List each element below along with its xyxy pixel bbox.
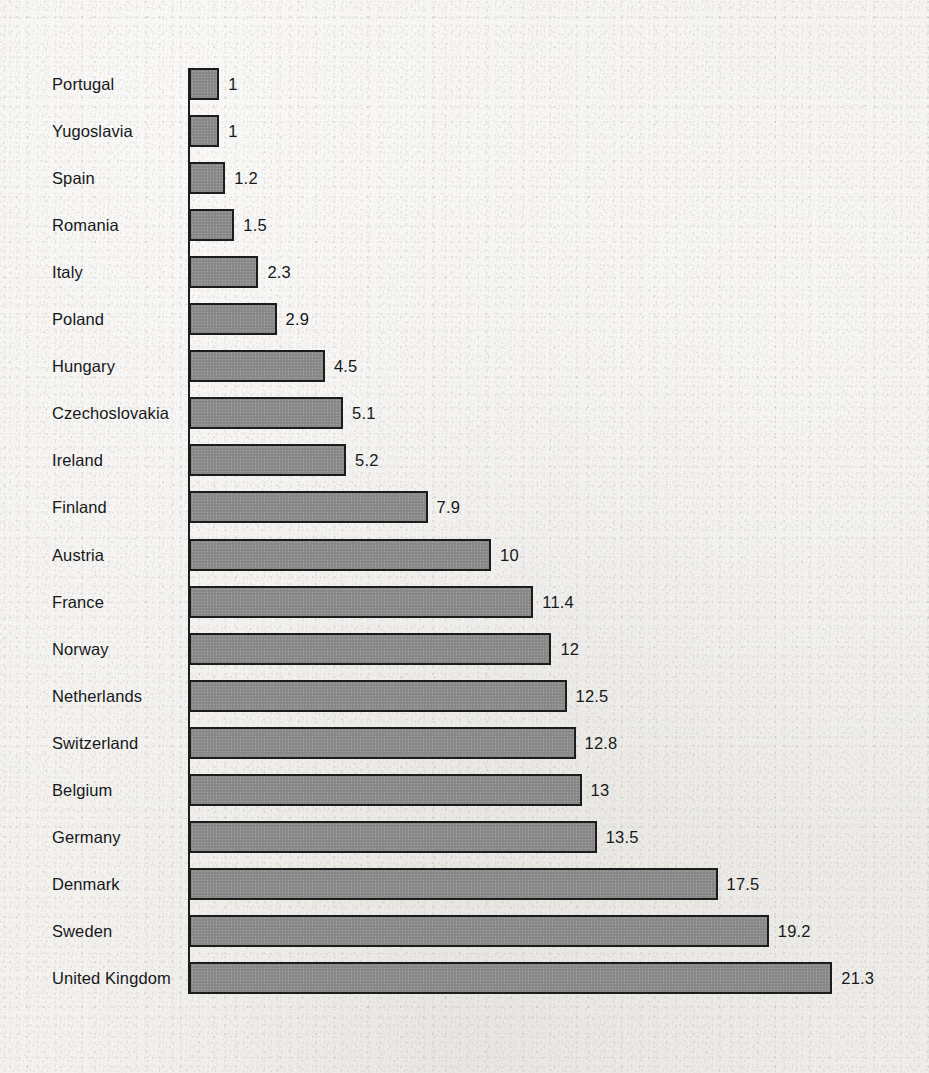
value-label-ireland: 5.2: [355, 451, 379, 470]
category-label-portugal: Portugal: [52, 75, 114, 94]
value-label-yugoslavia: 1: [228, 122, 237, 141]
value-label-austria: 10: [500, 545, 519, 564]
bar-row: Poland2.9: [0, 303, 929, 335]
bar-row: Norway12: [0, 633, 929, 665]
bar-norway: [189, 633, 551, 665]
bar-spain: [189, 162, 225, 194]
category-label-romania: Romania: [52, 216, 119, 235]
bar-row: United Kingdom21.3: [0, 962, 929, 994]
bar-row: Spain1.2: [0, 162, 929, 194]
bar-france: [189, 586, 533, 618]
value-label-italy: 2.3: [267, 263, 291, 282]
value-label-finland: 7.9: [437, 498, 461, 517]
bar-row: Italy2.3: [0, 256, 929, 288]
bar-row: Germany13.5: [0, 821, 929, 853]
value-label-denmark: 17.5: [727, 874, 760, 893]
value-label-hungary: 4.5: [334, 357, 358, 376]
bar-switzerland: [189, 727, 576, 759]
category-label-ireland: Ireland: [52, 451, 103, 470]
bar-row: Hungary4.5: [0, 350, 929, 382]
value-label-sweden: 19.2: [778, 921, 811, 940]
bar-sweden: [189, 915, 769, 947]
value-label-germany: 13.5: [606, 827, 639, 846]
bar-poland: [189, 303, 277, 335]
bar-united-kingdom: [189, 962, 832, 994]
category-label-denmark: Denmark: [52, 874, 120, 893]
category-label-united-kingdom: United Kingdom: [52, 968, 171, 987]
bar-yugoslavia: [189, 115, 219, 147]
category-label-finland: Finland: [52, 498, 107, 517]
bar-row: Denmark17.5: [0, 868, 929, 900]
value-label-switzerland: 12.8: [585, 733, 618, 752]
category-label-austria: Austria: [52, 545, 104, 564]
category-label-hungary: Hungary: [52, 357, 115, 376]
bar-row: Sweden19.2: [0, 915, 929, 947]
bar-row: Ireland5.2: [0, 444, 929, 476]
value-label-netherlands: 12.5: [576, 686, 609, 705]
bar-denmark: [189, 868, 718, 900]
value-label-united-kingdom: 21.3: [841, 968, 874, 987]
bar-netherlands: [189, 680, 567, 712]
category-label-germany: Germany: [52, 827, 121, 846]
category-label-france: France: [52, 592, 104, 611]
category-axis-line: [188, 68, 190, 994]
value-label-belgium: 13: [591, 780, 610, 799]
category-label-belgium: Belgium: [52, 780, 112, 799]
bar-row: Finland7.9: [0, 491, 929, 523]
bar-czechoslovakia: [189, 397, 343, 429]
bar-germany: [189, 821, 597, 853]
category-label-netherlands: Netherlands: [52, 686, 142, 705]
chart-page: Portugal1Yugoslavia1Spain1.2Romania1.5It…: [0, 0, 929, 1073]
category-label-poland: Poland: [52, 310, 104, 329]
bar-row: Romania1.5: [0, 209, 929, 241]
bar-row: Czechoslovakia5.1: [0, 397, 929, 429]
value-label-spain: 1.2: [234, 169, 258, 188]
bar-row: Portugal1: [0, 68, 929, 100]
category-label-sweden: Sweden: [52, 921, 112, 940]
bar-austria: [189, 539, 491, 571]
bar-belgium: [189, 774, 582, 806]
bar-row: Switzerland12.8: [0, 727, 929, 759]
value-label-poland: 2.9: [286, 310, 310, 329]
value-label-romania: 1.5: [243, 216, 267, 235]
bar-romania: [189, 209, 234, 241]
bar-finland: [189, 491, 428, 523]
bar-ireland: [189, 444, 346, 476]
category-label-norway: Norway: [52, 639, 109, 658]
category-label-yugoslavia: Yugoslavia: [52, 122, 133, 141]
category-label-italy: Italy: [52, 263, 83, 282]
value-label-portugal: 1: [228, 75, 237, 94]
value-label-france: 11.4: [542, 592, 574, 611]
category-label-spain: Spain: [52, 169, 95, 188]
bar-italy: [189, 256, 258, 288]
bar-row: Yugoslavia1: [0, 115, 929, 147]
bar-hungary: [189, 350, 325, 382]
bar-row: Austria10: [0, 539, 929, 571]
value-label-czechoslovakia: 5.1: [352, 404, 376, 423]
bar-row: Belgium13: [0, 774, 929, 806]
bar-row: France11.4: [0, 586, 929, 618]
value-label-norway: 12: [560, 639, 579, 658]
category-label-switzerland: Switzerland: [52, 733, 138, 752]
bar-row: Netherlands12.5: [0, 680, 929, 712]
horizontal-bar-chart: Portugal1Yugoslavia1Spain1.2Romania1.5It…: [0, 0, 929, 1073]
category-label-czechoslovakia: Czechoslovakia: [52, 404, 169, 423]
bar-portugal: [189, 68, 219, 100]
